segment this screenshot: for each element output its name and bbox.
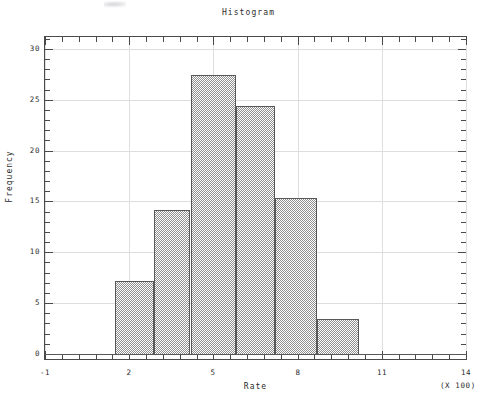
y-tick-minor: [45, 120, 50, 121]
y-tick-minor-right: [461, 212, 466, 213]
y-tick-major-right: [458, 49, 466, 50]
x-tick-minor-top: [112, 37, 113, 42]
y-tick-label: 20: [14, 146, 40, 155]
y-tick-minor: [45, 262, 50, 263]
x-tick-minor-top: [449, 37, 450, 42]
y-tick-minor-right: [461, 69, 466, 70]
y-tick-minor: [45, 191, 50, 192]
plot-area: [45, 37, 466, 359]
y-tick-major: [45, 252, 53, 253]
x-tick-minor-top: [180, 37, 181, 42]
y-tick-minor-right: [461, 140, 466, 141]
gridline-horizontal: [45, 100, 466, 101]
x-tick-major-top: [298, 37, 299, 45]
x-tick-minor-top: [314, 37, 315, 42]
y-tick-label: 15: [14, 196, 40, 205]
y-tick-minor: [45, 90, 50, 91]
x-axis-multiplier-note: (X 100): [440, 381, 476, 390]
x-tick-minor-top: [331, 37, 332, 42]
y-tick-minor: [45, 242, 50, 243]
y-tick-minor: [45, 161, 50, 162]
x-tick-minor-top: [197, 37, 198, 42]
x-tick-minor-top: [415, 37, 416, 42]
y-tick-minor-right: [461, 90, 466, 91]
y-tick-minor: [45, 334, 50, 335]
y-tick-minor-right: [461, 283, 466, 284]
y-tick-label: 0: [14, 349, 40, 358]
y-tick-minor-right: [461, 273, 466, 274]
x-tick-minor-top: [79, 37, 80, 42]
x-tick-major-top: [213, 37, 214, 45]
histogram-bar: [115, 281, 154, 355]
x-tick-minor-top: [247, 37, 248, 42]
y-axis-title: Frequency: [5, 142, 14, 212]
x-tick-minor-top: [348, 37, 349, 42]
y-tick-major: [45, 49, 53, 50]
y-tick-major-right: [458, 303, 466, 304]
y-tick-major-right: [458, 201, 466, 202]
y-tick-minor-right: [461, 262, 466, 263]
y-tick-minor: [45, 181, 50, 182]
y-tick-major: [45, 100, 53, 101]
x-tick-major: [382, 351, 383, 359]
y-tick-minor-right: [461, 242, 466, 243]
y-tick-minor-right: [461, 232, 466, 233]
x-tick-major-top: [382, 37, 383, 45]
y-tick-minor: [45, 171, 50, 172]
y-tick-minor: [45, 313, 50, 314]
y-tick-minor-right: [461, 293, 466, 294]
x-tick-label: 14: [446, 368, 486, 377]
y-tick-label: 30: [14, 44, 40, 53]
y-tick-minor-right: [461, 323, 466, 324]
y-tick-minor-right: [461, 161, 466, 162]
x-tick-label: -1: [25, 368, 65, 377]
y-tick-minor: [45, 59, 50, 60]
x-tick-minor-top: [399, 37, 400, 42]
x-tick-minor-top: [281, 37, 282, 42]
plot-frame: [44, 36, 467, 360]
x-tick-major: [45, 351, 46, 359]
y-tick-major: [45, 151, 53, 152]
y-tick-minor: [45, 323, 50, 324]
x-tick-minor-top: [62, 37, 63, 42]
y-tick-minor: [45, 110, 50, 111]
gridline-vertical: [382, 37, 383, 359]
y-tick-label: 5: [14, 298, 40, 307]
y-tick-minor-right: [461, 130, 466, 131]
y-tick-minor: [45, 344, 50, 345]
histogram-bar: [317, 319, 359, 355]
y-tick-minor: [45, 232, 50, 233]
y-tick-minor-right: [461, 120, 466, 121]
y-tick-minor-right: [461, 59, 466, 60]
y-tick-major-right: [458, 151, 466, 152]
x-tick-major: [466, 351, 467, 359]
y-tick-minor-right: [461, 191, 466, 192]
y-tick-label: 25: [14, 95, 40, 104]
scan-artifact-smudge: [104, 1, 126, 8]
histogram-bar: [236, 106, 275, 355]
x-tick-major-top: [129, 37, 130, 45]
x-tick-minor-top: [96, 37, 97, 42]
y-tick-minor-right: [461, 181, 466, 182]
x-tick-minor-top: [163, 37, 164, 42]
y-tick-minor: [45, 79, 50, 80]
y-tick-minor: [45, 222, 50, 223]
x-axis-tick-labels: -12581114: [44, 368, 467, 382]
histogram-bar: [275, 198, 317, 355]
x-tick-label: 2: [109, 368, 149, 377]
y-tick-minor-right: [461, 313, 466, 314]
gridline-horizontal: [45, 49, 466, 50]
y-tick-minor: [45, 293, 50, 294]
y-tick-minor-right: [461, 110, 466, 111]
y-tick-minor-right: [461, 171, 466, 172]
y-tick-minor-right: [461, 79, 466, 80]
x-tick-label: 8: [278, 368, 318, 377]
x-axis-title: Rate: [44, 382, 467, 391]
x-tick-major-top: [45, 37, 46, 45]
y-tick-minor: [45, 273, 50, 274]
y-tick-minor-right: [461, 344, 466, 345]
x-tick-minor-top: [264, 37, 265, 42]
y-tick-major: [45, 201, 53, 202]
zero-baseline: [45, 354, 466, 355]
gridline-vertical: [466, 37, 467, 359]
